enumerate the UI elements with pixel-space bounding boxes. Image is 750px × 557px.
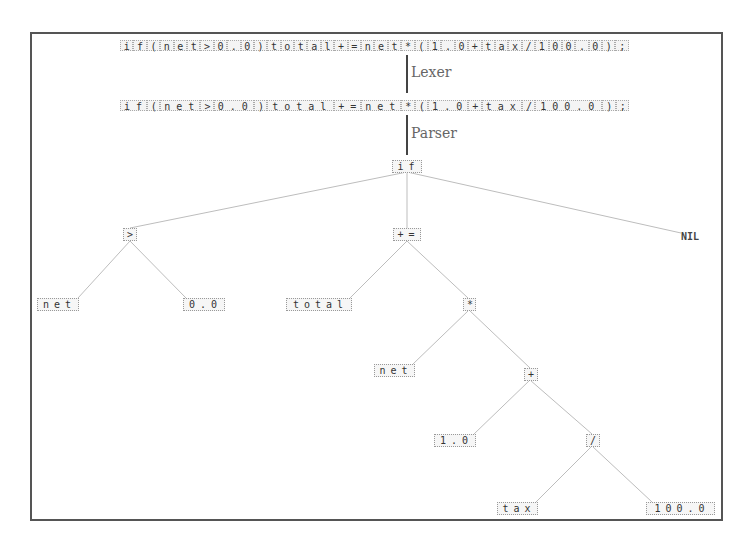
source-char: >	[200, 40, 213, 51]
parser-label: Parser	[411, 125, 457, 141]
tree-edges	[0, 0, 750, 557]
token: 1.0	[428, 100, 468, 111]
source-char: t	[267, 40, 280, 51]
source-char: l	[321, 40, 334, 51]
token: ;	[616, 100, 629, 111]
tree-node-mul: *	[463, 298, 476, 311]
tree-node-add: +	[524, 368, 538, 381]
source-char: e	[374, 40, 387, 51]
tree-node-net: net	[37, 298, 79, 311]
tree-node-total: total	[286, 298, 352, 311]
lexer-label: Lexer	[411, 64, 451, 80]
parser-arrow	[406, 115, 408, 155]
token: net	[160, 100, 200, 111]
source-char: (	[415, 40, 428, 51]
tree-node-plus-assign: +=	[393, 228, 421, 241]
source-char: )	[602, 40, 615, 51]
source-char: /	[522, 40, 535, 51]
tree-node-if: if	[392, 160, 422, 173]
token: +=	[334, 100, 361, 111]
token: 100.0	[535, 100, 602, 111]
source-char: t	[482, 40, 495, 51]
source-char: f	[133, 40, 146, 51]
token: )	[254, 100, 267, 111]
source-char: +	[468, 40, 481, 51]
source-char: n	[160, 40, 173, 51]
token: (	[415, 100, 428, 111]
source-char: 1	[428, 40, 441, 51]
tree-node-tax: tax	[497, 502, 538, 515]
lexer-arrow	[406, 55, 408, 93]
source-char: 0	[241, 40, 254, 51]
source-char: (	[147, 40, 160, 51]
tree-node-div: /	[586, 434, 600, 447]
source-char: =	[348, 40, 361, 51]
source-char: e	[174, 40, 187, 51]
source-code-row: if(net>0.0)total+=net*(1.0+tax/100.0);	[120, 40, 629, 52]
token: if	[120, 100, 147, 111]
source-char: .	[441, 40, 454, 51]
tree-node-gt: >	[123, 228, 137, 241]
tree-node-nil: NIL	[681, 231, 699, 242]
source-char: a	[307, 40, 320, 51]
token: tax	[482, 100, 522, 111]
source-char: ;	[615, 40, 628, 51]
source-char: *	[401, 40, 414, 51]
token: total	[267, 100, 334, 111]
source-char: 0	[455, 40, 468, 51]
token: )	[602, 100, 615, 111]
source-char: 0	[549, 40, 562, 51]
tree-node-hundred: 100.0	[646, 502, 715, 515]
source-char: a	[495, 40, 508, 51]
tree-node-zero: 0.0	[183, 298, 225, 311]
tree-node-net-2: net	[374, 364, 415, 377]
token: >	[200, 100, 213, 111]
source-char: t	[388, 40, 401, 51]
tree-node-one: 1.0	[434, 434, 476, 447]
token-row: if(net>0.0)total+=net*(1.0+tax/100.0);	[120, 100, 629, 112]
source-char: .	[575, 40, 588, 51]
token: +	[468, 100, 481, 111]
source-char: 0	[562, 40, 575, 51]
source-char: n	[361, 40, 374, 51]
source-char: o	[281, 40, 294, 51]
source-char: 1	[535, 40, 548, 51]
source-char: 0	[214, 40, 227, 51]
token: *	[401, 100, 414, 111]
token: net	[361, 100, 401, 111]
source-char: )	[254, 40, 267, 51]
token: /	[522, 100, 535, 111]
source-char: +	[334, 40, 347, 51]
source-char: t	[294, 40, 307, 51]
source-char: t	[187, 40, 200, 51]
source-char: x	[508, 40, 521, 51]
source-char: .	[227, 40, 240, 51]
source-char: i	[120, 40, 133, 51]
source-char: 0	[589, 40, 602, 51]
token: (	[147, 100, 160, 111]
token: 0.0	[214, 100, 254, 111]
